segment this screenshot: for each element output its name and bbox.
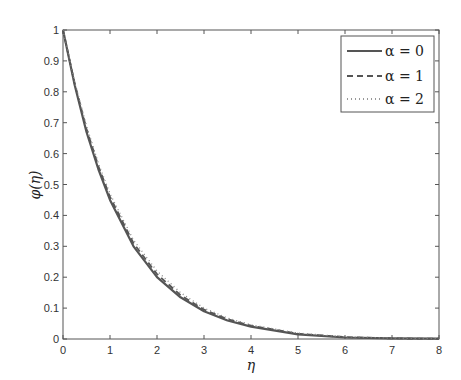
legend-label-2: α = 2 xyxy=(385,91,424,107)
legend-label-1: α = 1 xyxy=(385,68,424,84)
y-tick-label: 0.7 xyxy=(44,117,59,129)
y-tick-label: 0 xyxy=(53,333,59,345)
legend: α = 0 α = 1 α = 2 xyxy=(341,36,434,112)
y-tick-label: 0.6 xyxy=(44,148,59,160)
y-tick-label: 0.8 xyxy=(44,86,59,98)
y-axis-label: φ(η) xyxy=(27,170,43,199)
x-axis-label: η xyxy=(247,357,256,373)
x-tick-label: 6 xyxy=(342,344,348,356)
y-tick-label: 1 xyxy=(53,24,59,36)
x-tick-label: 1 xyxy=(107,344,113,356)
y-tick-label: 0.2 xyxy=(44,271,59,283)
x-tick-label: 2 xyxy=(154,344,160,356)
line-chart: 01234567800.10.20.30.40.50.60.70.80.91 η… xyxy=(0,0,461,380)
x-tick-label: 5 xyxy=(295,344,301,356)
x-tick-label: 0 xyxy=(60,344,66,356)
y-tick-label: 0.3 xyxy=(44,240,59,252)
y-tick-label: 0.9 xyxy=(44,55,59,67)
x-tick-label: 4 xyxy=(248,344,254,356)
y-tick-label: 0.5 xyxy=(44,179,59,191)
y-tick-label: 0.4 xyxy=(44,209,59,221)
x-tick-label: 8 xyxy=(436,344,442,356)
x-tick-label: 7 xyxy=(389,344,395,356)
legend-label-0: α = 0 xyxy=(385,43,424,59)
y-tick-label: 0.1 xyxy=(44,302,59,314)
x-tick-label: 3 xyxy=(201,344,207,356)
